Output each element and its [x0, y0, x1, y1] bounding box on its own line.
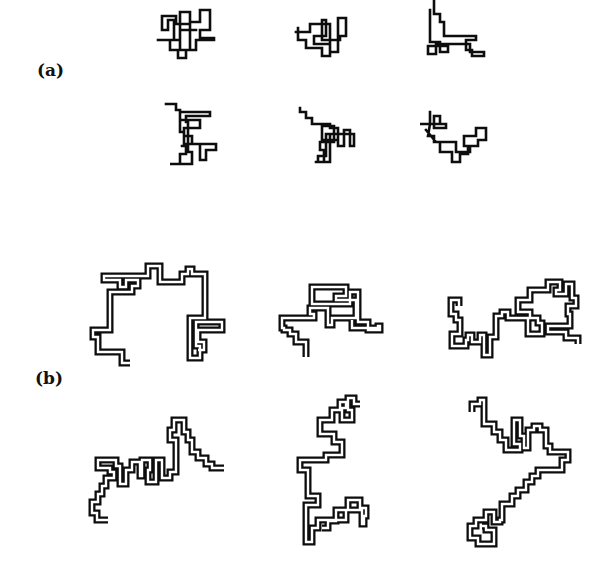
random-walk-figure — [0, 0, 604, 582]
panel-a-compact-walks — [158, 0, 486, 164]
panel-b-extended-walks — [92, 266, 578, 544]
walk-a4 — [166, 104, 216, 164]
walk-a3 — [428, 0, 484, 56]
walk-b2 — [282, 287, 380, 357]
walk-b6 — [470, 400, 568, 544]
walk-a6 — [420, 112, 486, 162]
walk-a2 — [296, 18, 346, 56]
walk-b4 — [92, 420, 224, 520]
walk-b1 — [93, 266, 222, 363]
walk-a1 — [158, 10, 214, 58]
walk-b5 — [300, 398, 366, 542]
walk-a5 — [300, 108, 354, 162]
walk-b3 — [451, 282, 578, 355]
